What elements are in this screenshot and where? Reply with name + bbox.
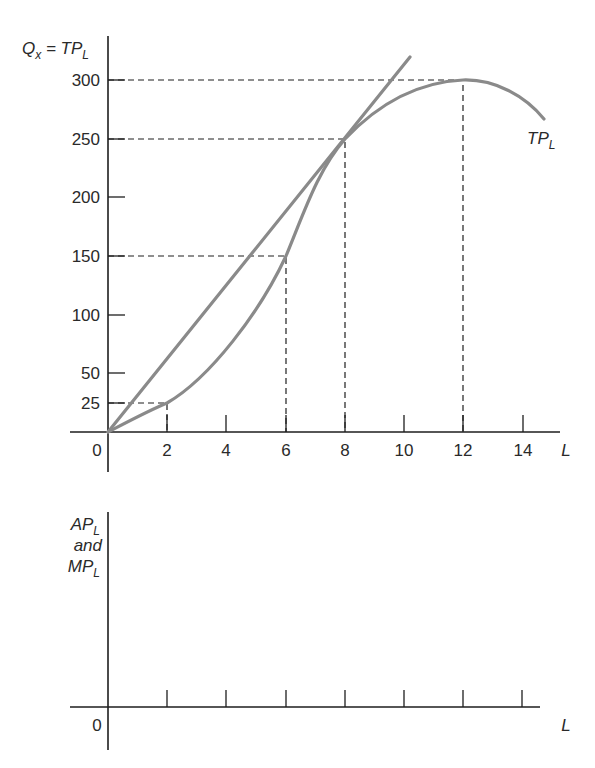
svg-text:50: 50 [81,364,100,383]
ap-mp-chart: 0 L APL and MPL [68,512,571,750]
production-charts: 300 250 200 150 100 50 25 0 2 4 6 8 10 1… [0,0,595,768]
svg-text:APL: APL [70,515,100,538]
tp-y-axis-title: Qx = TPL [22,39,89,62]
svg-text:300: 300 [72,71,100,90]
svg-text:150: 150 [72,247,100,266]
svg-text:2: 2 [162,441,171,460]
svg-text:MPL: MPL [68,557,100,580]
svg-text:6: 6 [281,441,290,460]
svg-text:25: 25 [81,394,100,413]
tp-y-ticks [108,80,125,403]
tp-x-axis-label: L [561,441,570,460]
ap-mp-x-ticks [167,690,522,707]
tp-x-tick-labels: 0 2 4 6 8 10 12 14 L [92,441,570,460]
svg-text:10: 10 [395,441,414,460]
tp-chart: 300 250 200 150 100 50 25 0 2 4 6 8 10 1… [22,36,571,472]
svg-text:and: and [74,536,103,555]
svg-text:4: 4 [221,441,230,460]
svg-text:200: 200 [72,188,100,207]
tp-curve-label: TPL [527,129,555,152]
svg-text:8: 8 [340,441,349,460]
ap-mp-x-axis-label: L [561,716,570,735]
svg-text:100: 100 [72,306,100,325]
svg-text:0: 0 [92,441,101,460]
ap-mp-origin-label: 0 [92,716,101,735]
guide-L6-Q150 [108,256,286,432]
ap-mp-y-axis-title: APL and MPL [68,515,103,580]
svg-text:250: 250 [72,130,100,149]
tp-y-tick-labels: 300 250 200 150 100 50 25 [72,71,100,413]
svg-text:14: 14 [514,441,533,460]
ray-from-origin [108,57,410,432]
svg-text:12: 12 [454,441,473,460]
